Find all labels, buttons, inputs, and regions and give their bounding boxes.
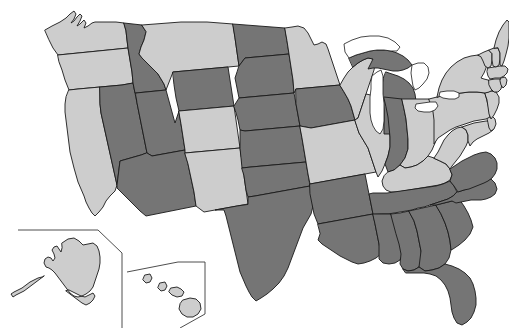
hawaii-inset-border bbox=[127, 262, 205, 328]
state-MN[interactable]: Minnesota bbox=[285, 26, 340, 93]
state-FL[interactable]: Florida bbox=[403, 264, 476, 325]
lake-ontario bbox=[439, 91, 459, 99]
hawaii-inset: Hawaii bbox=[127, 262, 205, 328]
state-OR[interactable]: Oregon bbox=[58, 48, 133, 90]
map-canvas: Washington Oregon California Nevada Idah… bbox=[0, 0, 509, 328]
hawaii-molokai-maui bbox=[169, 287, 184, 297]
state-AZ[interactable]: Arizona bbox=[117, 150, 196, 216]
hawaii-oahu bbox=[158, 282, 167, 291]
state-NE[interactable]: Nebraska bbox=[234, 93, 300, 131]
hawaii-kauai bbox=[143, 274, 152, 283]
state-SD[interactable]: South Dakota bbox=[235, 54, 294, 98]
state-KS[interactable]: Kansas bbox=[240, 126, 306, 168]
us-choropleth-map: Washington Oregon California Nevada Idah… bbox=[0, 0, 509, 328]
lake-huron bbox=[411, 63, 429, 90]
hawaii-big-island bbox=[179, 298, 201, 317]
state-HI[interactable]: Hawaii bbox=[143, 274, 201, 317]
lake-erie bbox=[415, 102, 438, 112]
alaska-inset: Alaska bbox=[11, 230, 122, 328]
state-CO[interactable]: Colorado bbox=[179, 106, 240, 153]
state-AK[interactable]: Alaska bbox=[11, 238, 100, 305]
state-WA[interactable]: Washington bbox=[45, 11, 128, 55]
lake-michigan bbox=[370, 70, 384, 134]
state-WY[interactable]: Wyoming bbox=[173, 67, 234, 111]
